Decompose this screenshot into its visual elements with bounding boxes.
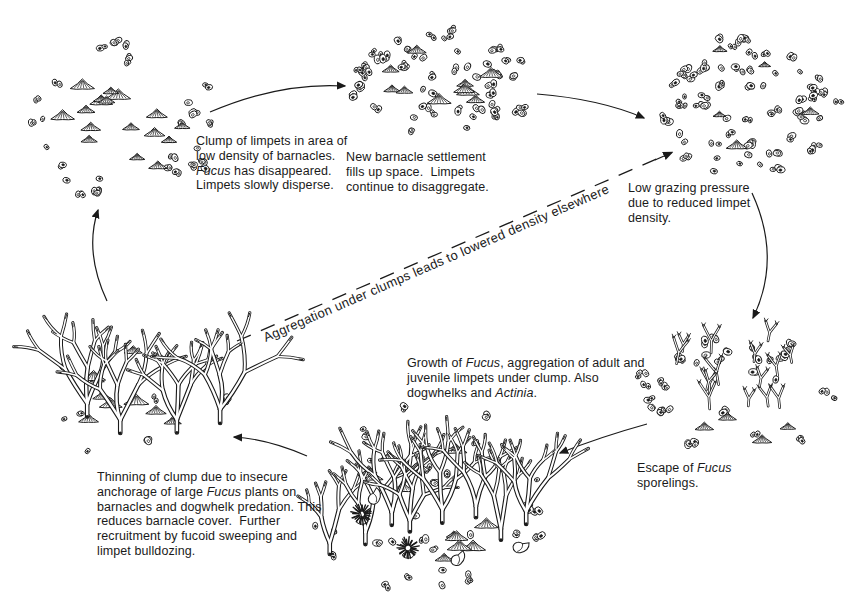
fucus-sporeling-icon xyxy=(741,386,756,407)
cluster-low-grazing xyxy=(659,33,845,174)
barnacle-icon xyxy=(418,53,428,62)
cycle-arrow-clump-to-settlement xyxy=(210,86,345,112)
barnacle-icon xyxy=(795,95,803,105)
barnacle-icon xyxy=(816,142,823,148)
species-name: Fucus xyxy=(207,485,242,499)
caption-limpet-clump: Clump of limpets in area of low density … xyxy=(196,134,359,193)
limpet-icon xyxy=(713,111,726,117)
barnacle-icon xyxy=(409,128,415,133)
barnacle-icon xyxy=(797,69,804,75)
barnacle-icon xyxy=(714,155,721,160)
barnacle-icon xyxy=(369,52,376,57)
species-name: Fucus xyxy=(697,461,732,475)
barnacle-icon xyxy=(426,32,433,37)
barnacle-icon xyxy=(454,48,462,55)
limpet-icon xyxy=(81,122,101,130)
barnacle-icon xyxy=(387,537,397,547)
caption-text: New barnacle settlement fills up space. … xyxy=(346,150,489,194)
limpet-icon xyxy=(146,109,167,118)
cluster-fucus-escape xyxy=(635,318,838,449)
barnacle-icon xyxy=(467,578,473,583)
species-name: Fucus xyxy=(466,356,501,370)
barnacle-icon xyxy=(521,104,529,111)
barnacle-icon xyxy=(455,107,461,115)
barnacle-icon xyxy=(385,584,390,591)
barnacle-icon xyxy=(739,68,746,76)
species-name: Actinia xyxy=(495,386,533,400)
barnacle-icon xyxy=(749,368,758,375)
barnacle-icon xyxy=(96,176,104,182)
barnacle-icon xyxy=(438,581,446,590)
barnacle-icon xyxy=(422,534,429,543)
barnacle-icon xyxy=(659,380,664,386)
barnacle-icon xyxy=(463,62,472,72)
barnacle-icon xyxy=(56,80,63,88)
limpet-icon xyxy=(81,135,97,142)
limpet-icon xyxy=(396,86,413,93)
anemone-icon xyxy=(397,537,419,559)
barnacle-icon xyxy=(420,86,427,93)
barnacle-icon xyxy=(698,92,705,98)
caption-text: Clump of limpets in area of low density … xyxy=(196,134,347,163)
fucus-plant-icon xyxy=(331,421,455,526)
cycle-diagram: Clump of limpets in area of low density … xyxy=(0,0,850,610)
fucus-sporeling-icon xyxy=(760,318,779,343)
barnacle-icon xyxy=(708,140,714,147)
caption-text: sporelings. xyxy=(637,476,699,490)
caption-clump-thinning: Thinning of clump due to insecure anchor… xyxy=(97,470,329,559)
barnacle-icon xyxy=(680,138,688,146)
limpet-icon xyxy=(382,65,399,72)
caption-barnacle-settlement: New barnacle settlement fills up space. … xyxy=(346,150,503,194)
barnacle-icon xyxy=(84,447,91,454)
caption-fucus-escape: Escape of Fucus sporelings. xyxy=(637,461,767,491)
caption-text: Growth of xyxy=(407,356,466,370)
barnacle-icon xyxy=(744,151,753,159)
barnacle-icon xyxy=(757,161,764,168)
limpet-icon xyxy=(466,95,484,103)
barnacle-icon xyxy=(188,162,194,167)
limpet-icon xyxy=(123,123,140,130)
dashed-arrow-head xyxy=(655,153,672,161)
barnacle-icon xyxy=(488,47,496,54)
barnacle-icon xyxy=(61,416,68,422)
barnacle-icon xyxy=(682,94,686,99)
cluster-clump-thinning xyxy=(14,313,303,455)
dogwhelk-icon xyxy=(511,538,530,556)
barnacle-icon xyxy=(702,59,707,66)
barnacle-icon xyxy=(441,35,448,42)
barnacle-icon xyxy=(102,44,108,48)
barnacle-icon xyxy=(773,150,781,156)
barnacle-icon xyxy=(677,103,681,108)
barnacle-icon xyxy=(693,359,700,367)
limpet-icon xyxy=(149,161,167,169)
limpet-icon xyxy=(175,122,190,129)
fucus-sporeling-icon xyxy=(752,364,770,387)
limpet-icon xyxy=(161,136,176,143)
barnacle-icon xyxy=(62,177,71,184)
barnacle-icon xyxy=(736,161,743,167)
caption-text: Low grazing pressure due to reduced limp… xyxy=(628,181,750,225)
limpet-icon xyxy=(70,79,94,89)
barnacle-icon xyxy=(768,112,775,117)
barnacle-icon xyxy=(731,63,740,70)
barnacle-icon xyxy=(431,112,438,117)
limpet-icon xyxy=(77,105,95,113)
barnacle-icon xyxy=(124,60,129,66)
barnacle-icon xyxy=(748,117,753,123)
cluster-fucus-growth xyxy=(298,401,589,591)
barnacle-icon xyxy=(353,67,358,73)
caption-text: Escape of xyxy=(637,461,697,475)
barnacle-icon xyxy=(452,68,457,75)
limpet-icon xyxy=(144,127,165,136)
barnacle-icon xyxy=(710,168,718,175)
limpet-icon xyxy=(759,62,771,67)
caption-text: . xyxy=(533,386,537,400)
barnacle-icon xyxy=(676,129,684,138)
barnacle-icon xyxy=(693,103,700,109)
barnacle-icon xyxy=(428,73,437,81)
limpet-icon xyxy=(129,153,144,160)
limpet-icon xyxy=(713,46,727,52)
barnacle-icon xyxy=(467,530,474,539)
barnacle-icon xyxy=(831,395,838,401)
cycle-arrow-thinning-to-clump xyxy=(93,210,107,301)
